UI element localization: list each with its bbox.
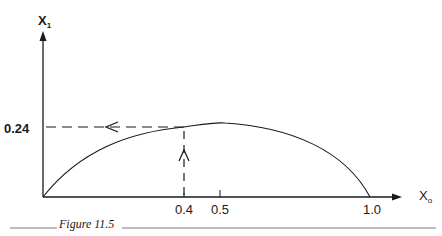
x-tick-label-0-5: 0.5 <box>211 202 229 217</box>
figure-canvas: X1 Xo 0.4 0.5 1.0 0.24 Figure 11.5 <box>0 0 442 236</box>
x-tick-label-1-0: 1.0 <box>363 202 381 217</box>
x-axis-label: Xo <box>419 188 433 205</box>
x-axis-arrow-icon <box>392 194 402 201</box>
curve <box>43 123 370 197</box>
figure-caption: Figure 11.5 <box>58 217 114 231</box>
x-tick-label-0-4: 0.4 <box>175 202 193 217</box>
y-tick-label-0-24: 0.24 <box>4 121 30 136</box>
y-axis-label: X1 <box>38 13 52 30</box>
y-axis-arrow-icon <box>40 31 47 41</box>
